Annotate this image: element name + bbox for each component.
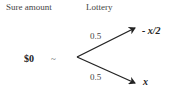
branch-down-probability: 0.5 xyxy=(90,73,101,82)
branch-down-arrow xyxy=(77,57,135,83)
branch-up-arrow xyxy=(77,28,135,57)
lottery-tree xyxy=(0,0,175,92)
branch-up-probability: 0.5 xyxy=(90,32,101,41)
branch-up-outcome: - x/2 xyxy=(142,26,161,36)
branch-down-outcome: x xyxy=(143,77,148,87)
